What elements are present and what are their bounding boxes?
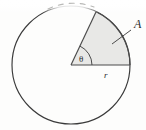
label-angle-theta: θ — [79, 54, 83, 64]
diagram-canvas: A r θ — [0, 0, 146, 130]
label-area-A: A — [133, 17, 142, 31]
scan-fade-artifact — [0, 0, 146, 13]
circle-sector-figure: A r θ — [0, 0, 146, 130]
label-radius-r: r — [104, 70, 108, 80]
